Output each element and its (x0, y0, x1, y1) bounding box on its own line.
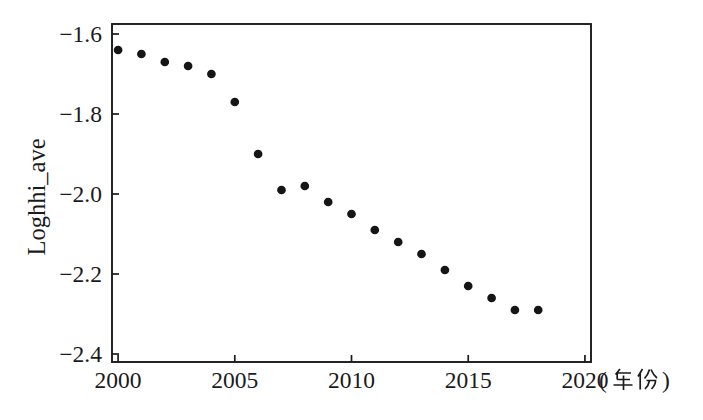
plot-generated-content: −1.6−1.8−2.0−2.2−2.420002005201020152020 (59, 21, 608, 393)
x-tick-label: 2005 (211, 367, 258, 393)
data-point (534, 306, 543, 315)
x-tick-label: 2020 (561, 367, 608, 393)
data-point (347, 210, 356, 219)
data-point (394, 238, 403, 247)
y-tick-label: −2.2 (59, 261, 102, 287)
data-point (114, 46, 123, 55)
y-axis-title: Loghhi_ave (23, 138, 50, 255)
data-point (184, 62, 193, 71)
data-point (441, 266, 450, 275)
y-tick-label: −2.0 (59, 181, 102, 207)
x-axis-unit-label: ( ) (599, 367, 670, 393)
x-tick-label: 2010 (328, 367, 375, 393)
data-point (230, 98, 239, 107)
plot-canvas: Loghhi_ave ( ) −1.6−1.8−2.0−2.2−2.420002… (0, 0, 703, 420)
data-point (207, 70, 216, 79)
data-point (370, 226, 379, 235)
y-tick-label: −1.8 (59, 101, 102, 127)
cjk-nian-year-glyph-icon (614, 369, 633, 390)
y-tick-label: −1.6 (59, 21, 102, 47)
data-point (254, 150, 263, 159)
data-point (324, 198, 333, 207)
data-point (487, 294, 496, 303)
y-tick-label: −2.4 (59, 341, 102, 367)
cjk-fen-portion-glyph-icon (638, 369, 657, 390)
data-point (277, 186, 286, 195)
unit-paren-close: ) (662, 367, 670, 393)
data-point (160, 58, 169, 67)
x-tick-label: 2000 (95, 367, 142, 393)
data-point (137, 50, 146, 59)
scatter-chart-figure: Loghhi_ave ( ) −1.6−1.8−2.0−2.2−2.420002… (0, 0, 703, 420)
x-tick-label: 2015 (445, 367, 492, 393)
data-point (417, 250, 426, 259)
plot-frame (112, 24, 591, 362)
data-point (464, 282, 473, 291)
data-point (300, 182, 309, 191)
data-point (511, 306, 520, 315)
